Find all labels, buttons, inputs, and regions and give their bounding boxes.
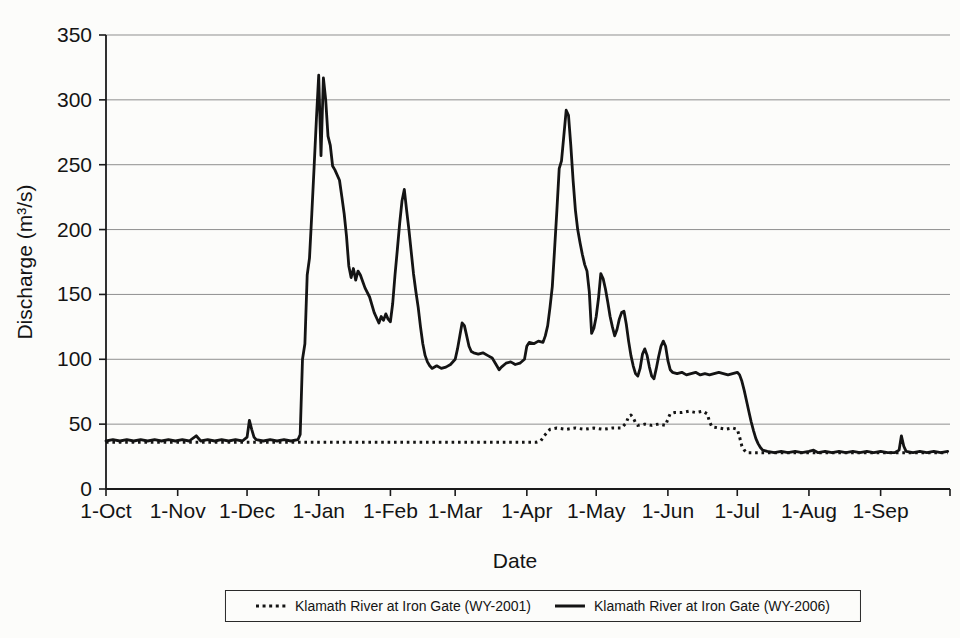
x-axis-title: Date <box>493 549 537 573</box>
x-tick-label: 1-Apr <box>501 499 552 522</box>
legend: Klamath River at Iron Gate (WY-2001)Klam… <box>225 590 861 622</box>
x-tick-label: 1-Dec <box>219 499 275 522</box>
x-tick-label: 1-Sep <box>853 499 909 522</box>
y-tick-label: 200 <box>57 218 92 241</box>
series-line-0 <box>106 411 948 453</box>
x-tick-label: 1-May <box>567 499 626 522</box>
x-tick-label: 1-Jan <box>292 499 345 522</box>
legend-item-1: Klamath River at Iron Gate (WY-2006) <box>555 598 830 614</box>
y-tick-label: 100 <box>57 347 92 370</box>
x-tick-label: 1-Mar <box>428 499 483 522</box>
legend-item-0: Klamath River at Iron Gate (WY-2001) <box>256 598 531 614</box>
x-tick-label: 1-Jul <box>715 499 761 522</box>
legend-label-0: Klamath River at Iron Gate (WY-2001) <box>295 598 531 614</box>
chart-figure: 0501001502002503003501-Oct1-Nov1-Dec1-Ja… <box>0 0 960 638</box>
chart-svg: 0501001502002503003501-Oct1-Nov1-Dec1-Ja… <box>0 0 960 575</box>
x-tick-label: 1-Nov <box>150 499 207 522</box>
y-tick-label: 50 <box>69 412 92 435</box>
legend-dotted-line-icon <box>256 602 286 610</box>
y-tick-label: 0 <box>80 477 92 500</box>
y-tick-label: 250 <box>57 153 92 176</box>
legend-label-1: Klamath River at Iron Gate (WY-2006) <box>594 598 830 614</box>
series-line-1 <box>106 75 948 453</box>
x-tick-label: 1-Oct <box>80 499 132 522</box>
y-tick-label: 150 <box>57 282 92 305</box>
x-tick-label: 1-Aug <box>781 499 837 522</box>
y-axis-title: Discharge (m³/s) <box>13 184 37 339</box>
y-tick-label: 350 <box>57 23 92 46</box>
legend-solid-line-icon <box>555 602 585 610</box>
y-tick-label: 300 <box>57 88 92 111</box>
x-tick-label: 1-Feb <box>363 499 418 522</box>
x-tick-label: 1-Jun <box>642 499 695 522</box>
